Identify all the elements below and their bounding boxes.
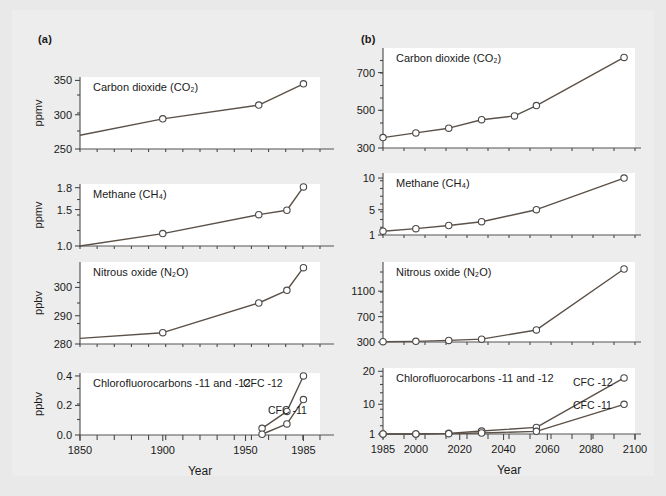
y-tick-label-a-co2-0: 250	[54, 143, 72, 155]
x-tick-label-b-cfc-4: 2060	[535, 443, 559, 455]
y-axis-unit-a-cfc: ppbv	[32, 392, 44, 416]
y-tick-label-b-ch4-1: 5	[369, 204, 375, 216]
chart-title-a-cfc: Chlorofluorocarbons -11 and -12	[93, 377, 251, 389]
data-point-b-ch4-0-0	[380, 228, 386, 234]
panel-group-b: (b) 300500700Carbon dioxide (CO₂)1510Met…	[345, 0, 666, 496]
chart-a-n2o: 280290300ppbvNitrous oxide (N₂O)	[32, 262, 334, 350]
data-point-b-cfc-1-1	[413, 431, 419, 437]
chart-title-a-n2o: Nitrous oxide (N₂O)	[93, 266, 188, 278]
y-tick-label-a-ch4-1: 1.5	[57, 204, 72, 216]
data-point-a-n2o-0-4	[300, 264, 306, 270]
data-point-b-n2o-0-2	[446, 337, 452, 343]
x-tick-label-b-cfc-3: 2040	[491, 443, 515, 455]
data-point-b-co2-0-0	[380, 134, 386, 140]
data-point-a-n2o-0-3	[284, 287, 290, 293]
chart-b-n2o: 3007001100Nitrous oxide (N₂O)	[351, 262, 641, 348]
y-tick-label-a-n2o-1: 290	[54, 310, 72, 322]
data-point-b-co2-0-4	[511, 113, 517, 119]
data-point-a-n2o-0-2	[256, 300, 262, 306]
data-point-a-cfc-1-2	[300, 396, 306, 402]
data-point-a-ch4-0-1	[160, 230, 166, 236]
x-tick-label-a-cfc-1: 1900	[151, 444, 175, 456]
series-label-b-cfc-1: CFC -11	[573, 399, 612, 411]
y-tick-label-b-cfc-2: 20	[363, 365, 375, 377]
data-point-b-ch4-0-3	[478, 219, 484, 225]
y-tick-label-b-co2-0: 300	[357, 142, 375, 154]
y-tick-label-a-n2o-2: 300	[54, 281, 72, 293]
panel-group-a: (a) 250300350ppmvCarbon dioxide (CO₂)1.0…	[0, 0, 345, 496]
x-axis-name-a-cfc: Year	[188, 464, 212, 478]
y-tick-label-b-ch4-2: 10	[363, 172, 375, 184]
data-point-a-ch4-0-2	[256, 211, 262, 217]
chart-b-co2: 300500700Carbon dioxide (CO₂)	[357, 48, 641, 154]
data-point-b-ch4-0-2	[446, 222, 452, 228]
y-tick-label-b-cfc-0: 1	[369, 428, 375, 440]
data-point-b-cfc-1-0	[380, 431, 386, 437]
y-tick-label-b-n2o-0: 300	[357, 336, 375, 348]
data-point-a-ch4-0-3	[284, 207, 290, 213]
chart-a-cfc: 0.00.20.41850190019501985YearppbvChlorof…	[32, 370, 334, 478]
chart-title-a-ch4: Methane (CH₄)	[93, 188, 167, 200]
x-tick-label-a-cfc-2: 1950	[233, 444, 257, 456]
x-tick-label-b-cfc-5: 2080	[579, 443, 603, 455]
chart-title-b-cfc: Chlorofluorocarbons -11 and -12	[396, 372, 554, 384]
chart-a-co2: 250300350ppmvCarbon dioxide (CO₂)	[32, 74, 334, 155]
chart-title-a-co2: Carbon dioxide (CO₂)	[93, 81, 198, 93]
charts-panel-a: 250300350ppmvCarbon dioxide (CO₂)1.01.51…	[0, 0, 345, 496]
data-point-b-cfc-0-5	[621, 375, 627, 381]
data-point-b-cfc-1-3	[478, 430, 484, 436]
data-point-b-n2o-0-1	[413, 338, 419, 344]
data-point-a-cfc-1-1	[284, 421, 290, 427]
x-tick-label-b-cfc-1: 2000	[404, 443, 428, 455]
x-axis-name-b-cfc: Year	[497, 463, 521, 477]
figure-root: (a) 250300350ppmvCarbon dioxide (CO₂)1.0…	[0, 0, 666, 496]
data-point-b-co2-0-1	[413, 130, 419, 136]
data-point-b-n2o-0-0	[380, 338, 386, 344]
data-point-a-co2-0-2	[256, 102, 262, 108]
x-tick-label-b-cfc-6: 2100	[623, 443, 647, 455]
charts-panel-b: 300500700Carbon dioxide (CO₂)1510Methane…	[345, 0, 666, 496]
data-point-b-cfc-1-5	[621, 401, 627, 407]
x-tick-label-a-cfc-3: 1985	[291, 444, 315, 456]
x-tick-label-b-cfc-0: 1985	[371, 443, 395, 455]
data-point-b-n2o-0-5	[621, 266, 627, 272]
x-tick-label-a-cfc-0: 1850	[68, 444, 92, 456]
series-label-b-cfc-0: CFC -12	[573, 376, 613, 388]
data-point-a-co2-0-1	[160, 116, 166, 122]
chart-title-b-ch4: Methane (CH₄)	[396, 177, 470, 189]
data-point-b-co2-0-3	[478, 116, 484, 122]
y-tick-label-a-ch4-2: 1.8	[57, 182, 72, 194]
y-axis-unit-a-ch4: ppmv	[32, 201, 44, 228]
y-tick-label-b-n2o-2: 1100	[351, 285, 375, 297]
y-tick-label-b-ch4-0: 1	[369, 229, 375, 241]
chart-a-ch4: 1.01.51.8ppmvMethane (CH₄)	[32, 182, 334, 252]
chart-title-b-co2: Carbon dioxide (CO₂)	[396, 52, 501, 64]
data-point-a-cfc-1-0	[259, 431, 265, 437]
data-point-b-co2-0-6	[621, 54, 627, 60]
data-point-b-co2-0-2	[446, 125, 452, 131]
data-point-b-cfc-1-4	[533, 428, 539, 434]
y-tick-label-b-n2o-1: 700	[357, 311, 375, 323]
chart-title-b-n2o: Nitrous oxide (N₂O)	[396, 266, 491, 278]
data-point-b-ch4-0-5	[621, 175, 627, 181]
data-point-b-co2-0-5	[533, 102, 539, 108]
y-tick-label-a-n2o-0: 280	[54, 338, 72, 350]
y-tick-label-a-cfc-0: 0.0	[57, 429, 72, 441]
data-point-b-ch4-0-4	[533, 206, 539, 212]
data-point-b-n2o-0-4	[533, 327, 539, 333]
data-point-a-n2o-0-1	[160, 329, 166, 335]
series-label-a-cfc-1: CFC -11	[268, 404, 307, 416]
data-point-a-co2-0-3	[300, 81, 306, 87]
y-tick-label-b-co2-2: 700	[357, 67, 375, 79]
y-axis-unit-a-co2: ppmv	[32, 99, 44, 126]
data-point-b-ch4-0-1	[413, 225, 419, 231]
series-label-a-cfc-0: CFC -12	[243, 377, 283, 389]
y-axis-unit-a-n2o: ppbv	[32, 291, 44, 315]
y-tick-label-a-co2-2: 350	[54, 74, 72, 86]
y-tick-label-a-ch4-0: 1.0	[57, 240, 72, 252]
data-point-b-n2o-0-3	[478, 336, 484, 342]
y-tick-label-b-cfc-1: 10	[363, 398, 375, 410]
data-point-b-cfc-1-2	[446, 430, 452, 436]
x-tick-label-b-cfc-2: 2020	[447, 443, 471, 455]
data-point-a-cfc-0-2	[300, 373, 306, 379]
